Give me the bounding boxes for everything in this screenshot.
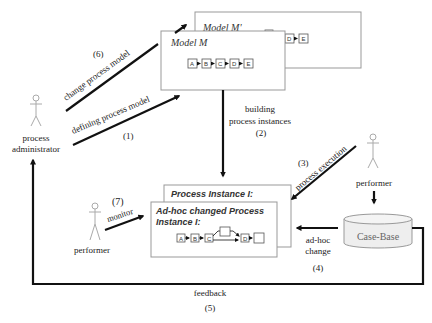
adhoc-instance-box: Ad-hoc changed Process Instance I: A B C… — [151, 202, 277, 257]
performer-left-actor-icon — [89, 203, 101, 240]
model-m-box: Model M A B C D E — [161, 31, 285, 90]
administrator-label-2: administrator — [12, 144, 60, 154]
svg-text:B: B — [193, 236, 197, 242]
build-instances-number: (2) — [256, 128, 267, 138]
svg-text:C: C — [218, 61, 223, 67]
case-base-label: Case-Base — [357, 231, 400, 242]
performer-right-label: performer — [356, 178, 392, 188]
administrator-actor-icon — [30, 95, 42, 126]
build-instances-label-1: building — [245, 104, 276, 114]
adhoc-change-number: (4) — [313, 263, 324, 273]
adhoc-change-label-2: change — [305, 246, 330, 256]
svg-text:A: A — [179, 236, 183, 242]
build-instances-label-2: process instances — [229, 116, 292, 126]
model-m-title: Model M — [170, 37, 208, 48]
change-model-number: (6) — [93, 49, 104, 59]
adhoc-instance-title-1: Ad-hoc changed Process — [155, 206, 264, 216]
svg-text:E: E — [302, 36, 306, 42]
svg-text:A: A — [190, 61, 194, 67]
adhoc-instance-title-2: Instance I: — [156, 217, 201, 227]
process-instance-title: Process Instance I: — [171, 189, 253, 199]
process-execution-number: (3) — [298, 158, 309, 168]
process-execution-arrow — [292, 146, 356, 199]
define-model-number: (1) — [123, 131, 134, 141]
monitor-number: (7) — [112, 196, 124, 208]
administrator-label-1: process — [23, 133, 50, 143]
svg-text:E: E — [247, 61, 251, 67]
process-diagram: Model M' D E Model M A B C D E process a… — [0, 0, 432, 323]
inserted-node — [220, 227, 230, 236]
svg-text:D: D — [287, 36, 292, 42]
performer-left-label: performer — [74, 245, 110, 255]
svg-text:C: C — [207, 236, 212, 242]
svg-text:B: B — [204, 61, 208, 67]
svg-text:D: D — [232, 61, 237, 67]
svg-text:D: D — [243, 236, 248, 242]
adhoc-change-label-1: ad-hoc — [306, 235, 331, 245]
feedback-label: feedback — [194, 288, 227, 298]
performer-right-actor-icon — [367, 134, 379, 168]
feedback-number: (5) — [205, 303, 216, 313]
